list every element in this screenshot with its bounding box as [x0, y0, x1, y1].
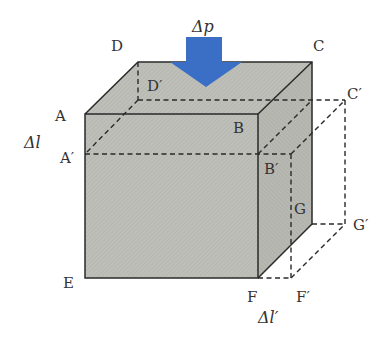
- label-A: A: [54, 107, 66, 125]
- label-G-prime: G′: [353, 216, 369, 234]
- label-F-prime: F′: [296, 288, 310, 306]
- label-delta-l-prime: Δl′: [257, 308, 279, 327]
- label-delta-p: Δp: [191, 17, 214, 36]
- label-C-prime: C′: [347, 85, 362, 103]
- label-E: E: [63, 274, 74, 292]
- label-A-prime: A′: [59, 149, 75, 167]
- label-C: C: [313, 37, 324, 55]
- label-D-prime: D′: [147, 77, 163, 95]
- label-delta-l: Δl: [23, 133, 41, 152]
- label-D: D: [111, 37, 123, 55]
- label-F: F: [247, 288, 257, 306]
- cube-front-face: [85, 114, 258, 278]
- cube-deformation-diagram: D C D′ C′ A B A′ B′ G G′ E F F′ Δp Δl Δl…: [0, 0, 388, 343]
- label-B-prime: B′: [264, 160, 279, 178]
- label-G: G: [294, 200, 306, 218]
- label-B: B: [233, 119, 244, 137]
